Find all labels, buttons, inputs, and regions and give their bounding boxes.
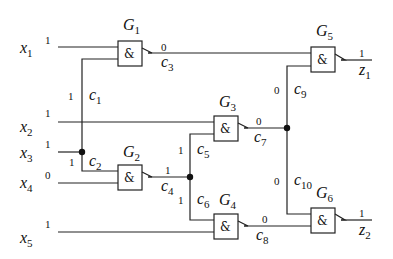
conn-c7-value: 0	[256, 115, 262, 127]
conn-c5-value: 1	[178, 144, 184, 156]
conn-c9-value: 0	[274, 84, 280, 96]
conn-c3-label: c3	[161, 53, 174, 73]
gate-g3-label: G3	[219, 93, 237, 113]
input-x3-value: 1	[45, 138, 51, 150]
conn-c1-value: 1	[68, 90, 74, 102]
input-x5-label: x5	[19, 229, 33, 249]
conn-c9-label: c9	[294, 80, 307, 100]
logic-circuit-diagram: & & & & & & G1 G2 G3 G4 G5 G6 x1 1 x2 1 …	[0, 0, 393, 259]
input-x4-value: 0	[45, 169, 51, 181]
gate-g4-label: G4	[219, 191, 237, 211]
wire-c9	[287, 66, 311, 128]
input-x2-label: x2	[19, 118, 33, 138]
conn-c6-value: 1	[178, 194, 184, 206]
conn-c5-label: c5	[197, 140, 210, 160]
conn-c4-value: 1	[165, 164, 171, 176]
gate-g6: &	[311, 208, 345, 233]
conn-c7-label: c7	[254, 128, 267, 148]
junction-dot-c7	[284, 125, 290, 131]
input-x2-value: 1	[45, 107, 51, 119]
input-x4-label: x4	[19, 174, 33, 194]
gate-g1: &	[118, 41, 152, 66]
gate-g4: &	[214, 214, 248, 239]
input-x1-value: 1	[45, 34, 51, 46]
conn-c6-label: c6	[197, 190, 210, 210]
gate-g5-symbol: &	[317, 53, 328, 67]
input-x3-label: x3	[19, 144, 33, 164]
conn-c2-label: c2	[89, 152, 102, 172]
conn-c10-value: 0	[274, 175, 280, 187]
conn-c8-value: 0	[262, 213, 268, 225]
conn-c1-label: c1	[89, 86, 102, 106]
gate-g3: &	[214, 116, 248, 141]
gate-g4-symbol: &	[220, 220, 231, 234]
gate-g5-label: G5	[316, 22, 334, 42]
gate-g6-symbol: &	[317, 214, 328, 228]
gate-g1-label: G1	[123, 16, 140, 36]
gate-g3-symbol: &	[220, 122, 231, 136]
junction-dot-x3	[79, 149, 85, 155]
output-z1-value: 1	[359, 47, 365, 59]
output-z2-value: 1	[359, 207, 365, 219]
conn-c10-label: c10	[294, 171, 313, 191]
conn-c2-value: 1	[69, 156, 75, 168]
gate-g2-symbol: &	[124, 171, 135, 185]
gate-g2-label: G2	[123, 143, 140, 163]
output-z1-label: z1	[358, 61, 371, 81]
gate-g5: &	[311, 47, 345, 72]
conn-c3-value: 0	[161, 41, 167, 53]
junction-dot-c4	[187, 174, 193, 180]
gate-g1-symbol: &	[124, 47, 135, 61]
conn-c4-label: c4	[161, 177, 174, 197]
gate-g2: &	[118, 165, 152, 190]
input-x1-label: x1	[19, 39, 33, 59]
gate-g6-label: G6	[316, 184, 334, 204]
conn-c8-label: c8	[256, 226, 269, 246]
output-z2-label: z2	[358, 221, 371, 241]
input-x5-value: 1	[45, 218, 51, 230]
